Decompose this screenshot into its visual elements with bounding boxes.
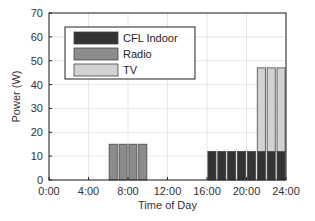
x-tick-label: 8:00	[117, 185, 138, 197]
x-tick-label: 0:00	[38, 185, 59, 197]
legend-label: TV	[123, 64, 138, 76]
bar-cfl-indoor	[247, 151, 255, 180]
bar-cfl-indoor	[228, 151, 236, 180]
x-tick-label: 4:00	[78, 185, 99, 197]
legend-swatch	[74, 64, 118, 76]
x-tick-label: 16:00	[193, 185, 221, 197]
bar-radio	[119, 144, 127, 180]
x-tick-label: 12:00	[154, 185, 182, 197]
bar-cfl-indoor	[257, 151, 265, 180]
legend-label: CFL Indoor	[123, 32, 178, 44]
bar-radio	[109, 144, 117, 180]
bar-tv	[267, 68, 275, 152]
y-axis-label: Power (W)	[10, 71, 22, 123]
y-tick-label: 60	[31, 31, 43, 43]
legend: CFL IndoorRadioTV	[65, 27, 195, 79]
y-tick-label: 30	[31, 102, 43, 114]
bar-radio	[139, 144, 147, 180]
y-tick-label: 70	[31, 7, 43, 19]
y-tick-label: 40	[31, 79, 43, 91]
legend-swatch	[74, 32, 118, 44]
bar-radio	[129, 144, 137, 180]
bar-cfl-indoor	[277, 151, 285, 180]
y-tick-label: 20	[31, 126, 43, 138]
bar-cfl-indoor	[208, 151, 216, 180]
bar-cfl-indoor	[267, 151, 275, 180]
x-tick-label: 24:00	[272, 185, 300, 197]
legend-swatch	[74, 48, 118, 60]
x-axis-label: Time of Day	[138, 199, 197, 211]
bar-tv	[257, 68, 265, 152]
legend-label: Radio	[123, 48, 152, 60]
bar-cfl-indoor	[218, 151, 226, 180]
bar-tv	[277, 68, 285, 152]
bar-cfl-indoor	[238, 151, 246, 180]
y-tick-label: 10	[31, 150, 43, 162]
x-tick-label: 20:00	[233, 185, 261, 197]
y-tick-label: 50	[31, 55, 43, 67]
stacked-bar-chart: 010203040506070 0:004:008:0012:0016:0020…	[0, 0, 315, 221]
